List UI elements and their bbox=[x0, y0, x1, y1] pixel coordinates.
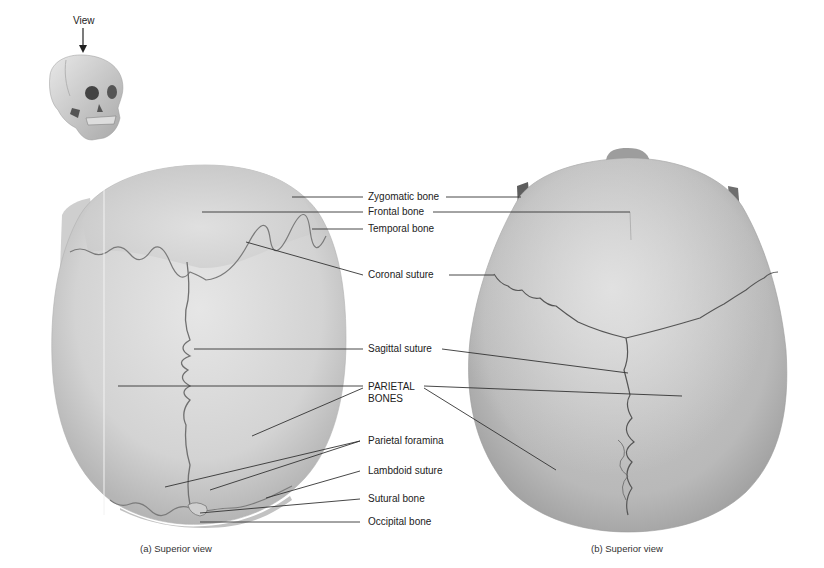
label-sagittal-suture: Sagittal suture bbox=[368, 343, 432, 355]
label-temporal-bone: Temporal bone bbox=[368, 223, 434, 235]
caption-panel-b: (b) Superior view bbox=[591, 543, 663, 554]
label-zygomatic-bone: Zygomatic bone bbox=[368, 191, 439, 203]
figure-artwork bbox=[0, 0, 824, 568]
label-frontal-bone: Frontal bone bbox=[368, 206, 424, 218]
label-coronal-suture: Coronal suture bbox=[368, 269, 434, 281]
skull-a-superior bbox=[52, 165, 346, 528]
label-sutural-bone: Sutural bone bbox=[368, 493, 425, 505]
caption-panel-a: (a) Superior view bbox=[140, 543, 212, 554]
orientation-skull-icon bbox=[49, 28, 122, 140]
label-parietal-foramina: Parietal foramina bbox=[368, 435, 444, 447]
label-parietal-bones-line2: BONES bbox=[368, 393, 403, 405]
skull-superior-view-figure: View Zygomatic bone Frontal bone Tempora… bbox=[0, 0, 824, 568]
label-parietal-bones-line1: PARIETAL bbox=[368, 381, 415, 393]
view-direction-label: View bbox=[73, 15, 95, 26]
label-occipital-bone: Occipital bone bbox=[368, 516, 431, 528]
label-lambdoid-suture: Lambdoid suture bbox=[368, 465, 443, 477]
skull-b-superior bbox=[469, 148, 787, 532]
